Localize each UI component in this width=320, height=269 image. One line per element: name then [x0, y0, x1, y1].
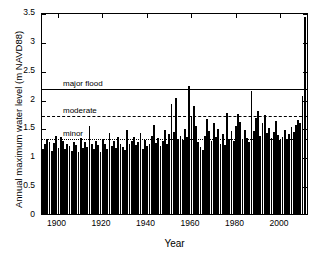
y-tick — [42, 158, 46, 159]
x-tick-top — [102, 14, 103, 18]
x-tick-label: 1980 — [215, 219, 255, 228]
y-tick-label: 1 — [3, 152, 35, 161]
x-tick-top — [147, 14, 148, 18]
y-tick-right — [303, 14, 307, 15]
y-tick-label: 1.5 — [3, 123, 35, 132]
x-tick-top — [191, 14, 192, 18]
x-tick — [102, 210, 103, 214]
y-tick-right — [303, 101, 307, 102]
plot-area: major floodmoderateminor — [41, 13, 308, 215]
x-tick-label: 1960 — [170, 219, 210, 228]
y-tick — [42, 72, 46, 73]
y-tick-label: 3.5 — [3, 8, 35, 17]
threshold-line-major-flood — [42, 89, 307, 90]
x-tick-label: 2000 — [259, 219, 299, 228]
x-tick-label: 1900 — [37, 219, 77, 228]
x-axis-title: Year — [41, 238, 308, 249]
y-tick-right — [303, 43, 307, 44]
y-tick-right — [303, 72, 307, 73]
y-tick — [42, 14, 46, 15]
y-tick-label: 0 — [3, 210, 35, 219]
threshold-line-moderate — [42, 116, 307, 117]
x-tick — [191, 210, 192, 214]
y-tick — [42, 187, 46, 188]
threshold-label-moderate: moderate — [63, 106, 97, 115]
x-tick — [236, 210, 237, 214]
y-tick-right — [303, 187, 307, 188]
x-tick — [280, 210, 281, 214]
x-tick-top — [58, 14, 59, 18]
x-tick-label: 1940 — [126, 219, 166, 228]
x-tick-top — [280, 14, 281, 18]
y-tick — [42, 101, 46, 102]
y-tick-label: 0.5 — [3, 181, 35, 190]
y-tick-label: 3 — [3, 37, 35, 46]
y-tick-right — [303, 158, 307, 159]
y-tick — [42, 129, 46, 130]
threshold-line-minor — [42, 139, 307, 140]
chart-figure: Annual maximum water level (m NAVD88) 00… — [0, 0, 320, 269]
x-tick-label: 1920 — [81, 219, 121, 228]
threshold-label-major-flood: major flood — [63, 79, 103, 88]
x-tick-top — [236, 14, 237, 18]
x-tick — [147, 210, 148, 214]
threshold-label-minor: minor — [63, 129, 83, 138]
y-tick-right — [303, 129, 307, 130]
y-tick-label: 2.5 — [3, 66, 35, 75]
y-tick-label: 2 — [3, 95, 35, 104]
y-tick — [42, 43, 46, 44]
x-tick — [58, 210, 59, 214]
